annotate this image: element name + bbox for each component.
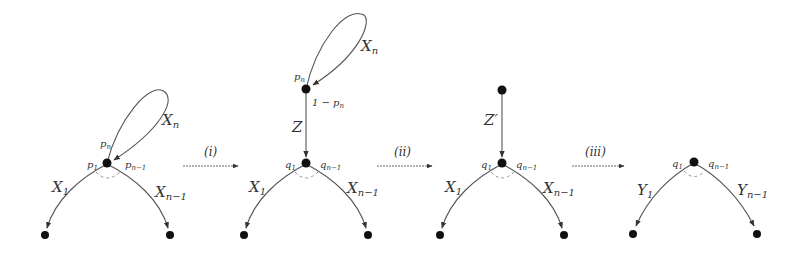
leaf-node-left bbox=[629, 230, 637, 238]
root-node bbox=[690, 158, 699, 167]
prob-right-label: qn−1 bbox=[708, 158, 729, 171]
leaf-node-right bbox=[753, 230, 761, 238]
leaf-node-right bbox=[364, 231, 372, 239]
leaf-node-left bbox=[41, 231, 49, 239]
left-edge-label: X1 bbox=[444, 178, 462, 197]
tree-transformation-diagram: Xn pn p1 pn−1 X1 Xn−1 (i) Xn pn 1 − pn Z… bbox=[0, 0, 805, 253]
left-edge-label: X1 bbox=[248, 178, 266, 197]
prob-left-label: q1 bbox=[672, 158, 683, 171]
right-edge-label: Xn−1 bbox=[154, 183, 187, 202]
prob-right-label: qn−1 bbox=[516, 159, 537, 172]
root-node bbox=[302, 159, 311, 168]
loop-label: Xn bbox=[161, 111, 179, 130]
prob-loop-label: pn bbox=[100, 138, 111, 151]
dashed-arc bbox=[96, 172, 120, 178]
step-i-arrow: (i) bbox=[183, 145, 238, 166]
vertical-edge-label: Z bbox=[291, 118, 303, 136]
dashed-arc bbox=[295, 172, 318, 178]
top-node bbox=[302, 85, 311, 94]
leaf-node-left bbox=[436, 231, 444, 239]
loop-edge-xn bbox=[107, 90, 168, 163]
step-iii-label: (iii) bbox=[585, 145, 606, 159]
prob-down-label: 1 − pn bbox=[312, 97, 345, 110]
step-ii-arrow: (ii) bbox=[377, 145, 432, 166]
leaf-node-right bbox=[166, 231, 174, 239]
right-edge-label: Xn−1 bbox=[346, 179, 379, 198]
dashed-arc bbox=[684, 171, 705, 177]
left-edge-label: X1 bbox=[51, 178, 69, 197]
loop-edge-xn bbox=[306, 13, 366, 89]
panel-1: Xn pn p1 pn−1 X1 Xn−1 bbox=[41, 90, 187, 239]
step-ii-label: (ii) bbox=[394, 145, 411, 159]
panel-2: Xn pn 1 − pn Z q1 qn−1 X1 Xn−1 bbox=[240, 13, 379, 239]
dashed-arc bbox=[491, 172, 514, 178]
prob-right-label: qn−1 bbox=[320, 159, 341, 172]
left-edge-label: Y1 bbox=[637, 181, 653, 200]
root-node bbox=[103, 159, 112, 168]
right-edge-label: Yn−1 bbox=[737, 181, 768, 200]
loop-label: Xn bbox=[360, 37, 378, 56]
right-edge-label: Xn−1 bbox=[542, 179, 575, 198]
root-node bbox=[498, 159, 507, 168]
step-iii-arrow: (iii) bbox=[572, 145, 624, 166]
panel-3: Z′ q1 qn−1 X1 Xn−1 bbox=[436, 86, 575, 240]
top-node bbox=[498, 86, 507, 95]
prob-left-label: q1 bbox=[481, 159, 492, 172]
prob-left-label: q1 bbox=[285, 159, 296, 172]
leaf-node-left bbox=[240, 231, 248, 239]
prob-left-label: p1 bbox=[87, 159, 98, 172]
step-i-label: (i) bbox=[204, 145, 218, 159]
vertical-edge-label: Z′ bbox=[483, 111, 498, 129]
prob-loop-label: pn bbox=[294, 71, 305, 84]
panel-4: q1 qn−1 Y1 Yn−1 bbox=[629, 158, 768, 239]
prob-right-label: pn−1 bbox=[125, 159, 146, 172]
leaf-node-right bbox=[560, 231, 568, 239]
